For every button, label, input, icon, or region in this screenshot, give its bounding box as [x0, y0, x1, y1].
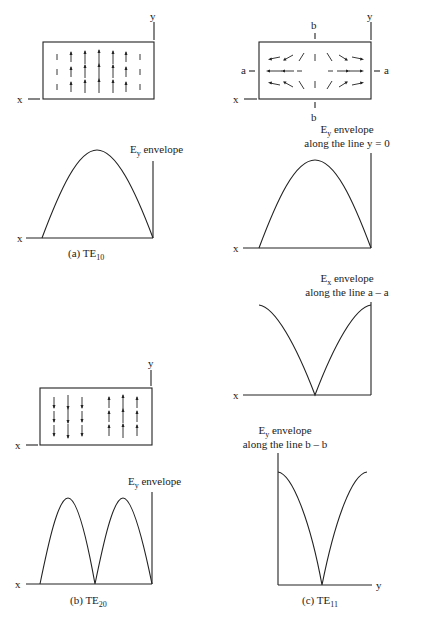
field-arrows-b [53, 394, 139, 439]
line-a-label-right: a [384, 64, 389, 76]
panel-c-te11: y x b b a a [233, 10, 390, 609]
down-arrow-column-3 [81, 397, 84, 437]
field-arrows-c [266, 53, 364, 89]
line-b-label-top: b [311, 19, 317, 31]
y-axis-label-c: y [367, 10, 373, 22]
arrow-column-2 [70, 51, 73, 92]
caption-c: (c) TE11 [302, 594, 338, 609]
envelope-curve-c3 [278, 472, 367, 585]
arrow-column-5 [112, 50, 115, 93]
x-label-plot-c2: x [233, 389, 239, 401]
envelope-sublabel-c3: along the line b – b [243, 438, 328, 450]
y-label-plot-c3: y [376, 579, 382, 591]
waveguide-cross-section-b [40, 388, 152, 445]
up-arrow-column-2 [122, 394, 125, 438]
down-arrow-column-1 [53, 397, 56, 437]
line-a-label-left: a [241, 64, 246, 76]
up-arrow-column-1 [108, 396, 111, 436]
arrow-column-6 [125, 51, 128, 92]
x-label-plot-b: x [15, 578, 21, 590]
envelope-curve-c2 [259, 305, 371, 395]
arrow-column-4 [98, 49, 101, 93]
arrow-column-3 [84, 50, 87, 93]
envelope-label-c1: Ey envelope [320, 123, 373, 138]
panel-b-te20: y x [15, 357, 181, 609]
x-label-plot-c1: x [233, 242, 239, 254]
envelope-sublabel-c1: along the line y = 0 [304, 137, 390, 149]
envelope-label-c2: Ex envelope [320, 272, 373, 287]
envelope-curve-b [40, 498, 152, 584]
x-axis-label-b: x [15, 439, 21, 451]
waveguide-cross-section-c [259, 42, 371, 99]
envelope-curve-a [42, 150, 153, 238]
x-axis-label-a: x [17, 93, 23, 105]
down-arrow-column-2 [67, 395, 70, 439]
envelope-sublabel-c2: along the line a – a [305, 286, 389, 298]
line-b-label-bottom: b [311, 111, 317, 123]
caption-b: (b) TE20 [70, 594, 107, 609]
envelope-label-c3: Ey envelope [258, 424, 311, 439]
caption-a: (a) TE10 [68, 247, 104, 262]
envelope-curve-c1 [259, 160, 371, 248]
y-axis-label-a: y [150, 10, 156, 22]
envelope-label-a: Ey envelope [130, 143, 183, 158]
panel-a-te10: y x [17, 10, 183, 262]
up-arrow-column-3 [136, 396, 139, 436]
envelope-label-b: Ey envelope [128, 475, 181, 490]
waveguide-mode-diagram: y x [0, 0, 425, 623]
x-label-plot-a: x [17, 232, 23, 244]
field-arrows-a [57, 49, 140, 93]
y-axis-label-b: y [148, 357, 154, 369]
x-axis-label-c: x [233, 93, 239, 105]
